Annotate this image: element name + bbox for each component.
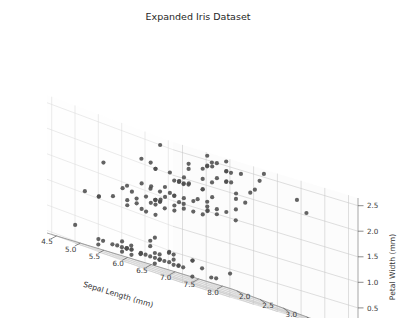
x-tick-label: 7.0 bbox=[160, 273, 172, 282]
scatter-point bbox=[172, 258, 176, 262]
scatter-point bbox=[125, 184, 129, 188]
x-tick-label: 7.5 bbox=[184, 280, 195, 289]
scatter-point bbox=[148, 244, 152, 248]
scatter-point bbox=[248, 191, 252, 195]
scatter-point bbox=[172, 252, 176, 256]
scatter-point bbox=[134, 196, 138, 200]
x-tick-label: 5.5 bbox=[89, 252, 100, 261]
scatter-point bbox=[234, 207, 238, 211]
scatter-point bbox=[205, 200, 209, 204]
scatter-point bbox=[224, 210, 228, 214]
scatter-point bbox=[196, 197, 200, 201]
scatter-point bbox=[224, 159, 228, 163]
scatter-point bbox=[163, 195, 167, 199]
scatter-point bbox=[120, 245, 124, 249]
scatter-point bbox=[139, 251, 143, 255]
scatter-point bbox=[205, 164, 209, 168]
scatter-point bbox=[205, 204, 209, 208]
scatter-point bbox=[120, 250, 124, 254]
scatter-point bbox=[201, 167, 205, 171]
scatter-point bbox=[158, 143, 162, 147]
scatter-point bbox=[215, 176, 219, 180]
scatter-point bbox=[182, 181, 186, 185]
scatter-point bbox=[168, 170, 172, 174]
scatter-point bbox=[153, 261, 157, 265]
y-tick-label: 3.0 bbox=[286, 310, 298, 318]
scatter-point bbox=[209, 275, 213, 279]
scatter-point bbox=[153, 213, 157, 217]
scatter-point bbox=[125, 203, 129, 207]
scatter-point bbox=[243, 201, 247, 205]
scatter-point bbox=[135, 201, 139, 205]
scatter-point bbox=[215, 161, 219, 165]
scatter-point bbox=[181, 265, 185, 269]
scatter-point bbox=[149, 201, 153, 205]
scatter-point bbox=[224, 179, 228, 183]
scatter-point bbox=[158, 252, 162, 256]
y-tick-label: 2.5 bbox=[262, 301, 273, 310]
scatter-point bbox=[224, 169, 228, 173]
scatter-point bbox=[253, 188, 257, 192]
scatter-point bbox=[177, 179, 181, 183]
scatter-point bbox=[215, 207, 219, 211]
scatter-point bbox=[130, 190, 134, 194]
scatter-point bbox=[101, 161, 105, 165]
y-tick-label: 2.0 bbox=[239, 292, 251, 301]
scatter-point bbox=[228, 272, 232, 276]
scatter-point bbox=[153, 198, 157, 202]
scatter-point bbox=[210, 180, 214, 184]
scatter-point bbox=[129, 247, 133, 251]
z-axis-label: Petal Width (mm) bbox=[388, 234, 397, 300]
z-tick-label: 1.0 bbox=[367, 278, 379, 287]
scatter-point bbox=[153, 167, 157, 171]
scatter-point bbox=[295, 198, 299, 202]
x-tick-label: 6.0 bbox=[112, 259, 124, 268]
z-tick-label: 1.5 bbox=[367, 252, 378, 261]
scatter-point bbox=[97, 194, 101, 198]
scatter-point bbox=[153, 251, 157, 255]
scatter-point bbox=[191, 199, 195, 203]
scatter-point bbox=[214, 276, 218, 280]
scatter-point bbox=[182, 196, 186, 200]
scatter-point bbox=[143, 253, 147, 257]
scatter-point bbox=[182, 202, 186, 206]
scatter-point bbox=[140, 181, 144, 185]
scatter-point bbox=[210, 161, 214, 165]
scatter-point bbox=[96, 242, 100, 246]
scatter-point bbox=[163, 206, 167, 210]
scatter-point bbox=[115, 243, 119, 247]
scatter-point bbox=[144, 210, 148, 214]
scatter-point bbox=[205, 208, 209, 212]
scatter-point bbox=[172, 178, 176, 182]
scatter-point bbox=[200, 266, 204, 270]
scatter-point bbox=[172, 263, 176, 267]
scatter-point bbox=[172, 209, 176, 213]
scatter-point bbox=[83, 189, 87, 193]
scatter-point bbox=[172, 194, 176, 198]
x-tick-label: 4.5 bbox=[41, 237, 52, 246]
scatter-point bbox=[190, 274, 194, 278]
scatter-point bbox=[148, 254, 152, 258]
scatter-point bbox=[153, 236, 157, 240]
scatter-point bbox=[167, 250, 171, 254]
scatter-point bbox=[153, 256, 157, 260]
scatter-point bbox=[125, 198, 129, 202]
scatter-point bbox=[182, 207, 186, 211]
scatter-point bbox=[229, 180, 233, 184]
scatter-point bbox=[229, 171, 233, 175]
scatter-point bbox=[210, 195, 214, 199]
scatter-point bbox=[239, 172, 243, 176]
scatter-point bbox=[191, 209, 195, 213]
scatter-point bbox=[140, 207, 144, 211]
scatter-point bbox=[201, 177, 205, 181]
scatter-point bbox=[201, 212, 205, 216]
scatter-point bbox=[177, 200, 181, 204]
scatter-point bbox=[187, 167, 191, 171]
scatter-point bbox=[125, 246, 129, 250]
scatter-point bbox=[167, 260, 171, 264]
scatter-point bbox=[120, 239, 124, 243]
scatter-point bbox=[163, 185, 167, 189]
scatter-point bbox=[215, 212, 219, 216]
scatter-point bbox=[234, 218, 238, 222]
x-tick-label: 8.0 bbox=[207, 288, 219, 297]
